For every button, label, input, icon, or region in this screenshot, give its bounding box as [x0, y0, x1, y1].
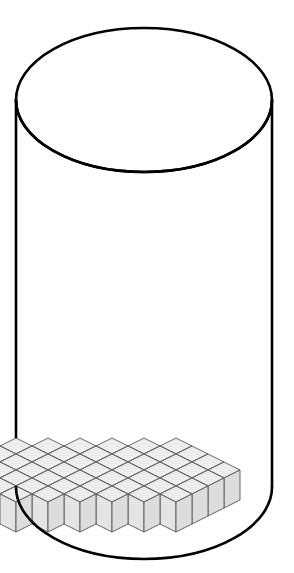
base-cube	[64, 486, 96, 532]
figure-canvas	[0, 0, 294, 573]
base-cube	[128, 486, 160, 532]
isometric-cube-cylinder-illustration	[0, 0, 294, 573]
base-cube	[96, 486, 128, 532]
cube-group	[0, 438, 240, 532]
base-cube	[160, 486, 192, 532]
